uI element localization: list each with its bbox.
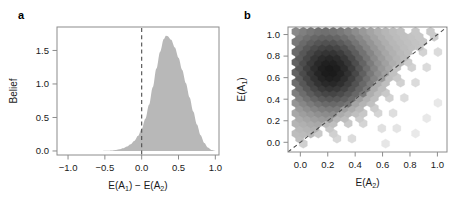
x-tick-label: 0.8 bbox=[403, 159, 416, 170]
y-tick-label: 0.0 bbox=[36, 145, 49, 156]
x-tick-label: 0.0 bbox=[135, 162, 148, 173]
hexbin-cell bbox=[423, 114, 431, 123]
panel-a-plot: −1.0−0.50.00.51.00.00.51.01.5E(A1) − E(A… bbox=[0, 0, 228, 207]
x-tick-label: 0.4 bbox=[349, 159, 362, 170]
y-axis-title: Belief bbox=[8, 78, 19, 103]
y-tick-label: 0.8 bbox=[267, 50, 280, 61]
hexbin-cell bbox=[393, 124, 401, 133]
panel-b: b 0.00.20.40.60.81.00.00.20.40.60.81.0E(… bbox=[228, 0, 457, 207]
hexbin-layer bbox=[288, 27, 447, 152]
hexbin-cell bbox=[378, 124, 386, 133]
y-tick-label: 1.5 bbox=[36, 45, 49, 56]
x-tick-label: −0.5 bbox=[95, 162, 114, 173]
y-tick-label: 0.2 bbox=[267, 115, 280, 126]
x-tick-label: 1.0 bbox=[209, 162, 222, 173]
hexbin-cell bbox=[434, 47, 442, 56]
y-tick-label: 0.4 bbox=[267, 94, 280, 105]
hexbin-cell bbox=[423, 63, 431, 72]
x-axis-title: E(A1) − E(A2) bbox=[108, 180, 167, 193]
x-tick-label: 0.6 bbox=[376, 159, 389, 170]
panel-a: a −1.0−0.50.00.51.00.00.51.01.5E(A1) − E… bbox=[0, 0, 228, 207]
panel-b-plot: 0.00.20.40.60.81.00.00.20.40.60.81.0E(A2… bbox=[228, 0, 457, 207]
hexbin-cell bbox=[348, 134, 356, 143]
hexbin-cell bbox=[434, 98, 442, 107]
y-tick-label: 0.6 bbox=[267, 72, 280, 83]
x-axis-title: E(A2) bbox=[355, 177, 379, 190]
x-tick-label: 0.0 bbox=[294, 159, 307, 170]
hexbin-cell bbox=[411, 129, 419, 138]
y-tick-label: 0.5 bbox=[36, 112, 49, 123]
y-tick-label: 1.0 bbox=[36, 78, 49, 89]
figure-two-panel: a −1.0−0.50.00.51.00.00.51.01.5E(A1) − E… bbox=[0, 0, 457, 207]
density-area bbox=[59, 36, 217, 151]
y-tick-label: 1.0 bbox=[267, 29, 280, 40]
hexbin-cell bbox=[389, 108, 397, 117]
x-tick-label: 0.2 bbox=[321, 159, 334, 170]
hexbin-cell bbox=[382, 139, 390, 148]
hexbin-cell bbox=[400, 93, 408, 102]
y-axis-title: E(A1) bbox=[236, 77, 249, 101]
x-tick-label: −1.0 bbox=[59, 162, 78, 173]
x-tick-label: 0.5 bbox=[172, 162, 185, 173]
hexbin-cell bbox=[411, 78, 419, 87]
y-tick-label: 0.0 bbox=[267, 137, 280, 148]
x-tick-label: 1.0 bbox=[431, 159, 444, 170]
